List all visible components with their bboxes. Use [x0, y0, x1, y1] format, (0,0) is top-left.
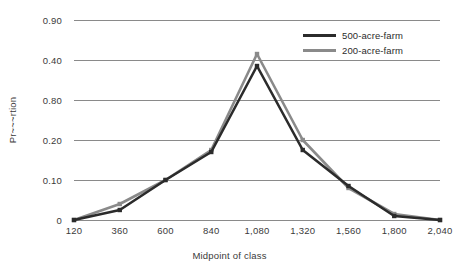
y-axis-tick-label: 0.10 [0, 175, 66, 186]
data-point-marker [392, 214, 396, 218]
y-axis-tick-label: 0.40 [0, 55, 66, 66]
series-line [74, 66, 440, 220]
x-axis-tick-label: 1,560 [336, 225, 361, 236]
legend-swatch-icon [303, 49, 336, 52]
gridline [74, 220, 440, 221]
x-axis-tick-labels: 1203606008401,0801,3201,5601,8002,040 [74, 225, 440, 239]
chart-figure: 0.900.400.800.200.100 Pr~~~rtion 1203606… [0, 0, 459, 280]
y-axis-title: Pr~~~rtion [7, 97, 18, 144]
data-point-marker [346, 184, 350, 188]
x-axis-tick-label: 1,320 [290, 225, 315, 236]
data-point-marker [209, 150, 213, 154]
data-point-marker [301, 138, 305, 142]
data-point-marker [72, 218, 76, 222]
x-axis-tick-label: 120 [66, 225, 82, 236]
data-point-marker [118, 202, 122, 206]
data-point-marker [301, 148, 305, 152]
legend-item: 500-acre-farm [303, 29, 403, 41]
data-point-marker [255, 52, 259, 56]
data-point-marker [118, 208, 122, 212]
legend-item: 200-acre-farm [303, 44, 403, 56]
x-axis-tick-label: 1,080 [245, 225, 270, 236]
data-point-marker [255, 64, 259, 68]
y-axis-tick-label: 0 [0, 215, 66, 226]
x-axis-title: Midpoint of class [0, 250, 459, 261]
x-axis-tick-label: 1,800 [382, 225, 407, 236]
legend-item-label: 500-acre-farm [342, 30, 403, 41]
x-axis-tick-label: 600 [157, 225, 173, 236]
chart-legend: 500-acre-farm200-acre-farm [303, 29, 403, 56]
data-point-marker [163, 178, 167, 182]
x-axis-tick-label: 2,040 [428, 225, 453, 236]
x-axis-tick-label: 360 [112, 225, 128, 236]
data-point-marker [438, 218, 442, 222]
x-axis-tick-label: 840 [203, 225, 219, 236]
y-axis-tick-label: 0.90 [0, 15, 66, 26]
legend-swatch-icon [303, 34, 336, 37]
series-line [74, 54, 440, 220]
legend-item-label: 200-acre-farm [342, 45, 403, 56]
